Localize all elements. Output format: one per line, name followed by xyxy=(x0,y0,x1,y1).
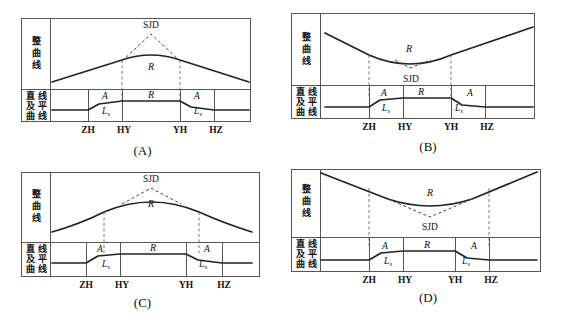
panel-b-sjd-label: SJD xyxy=(403,74,419,84)
panel-a-plan-row-label: 直 线 及 平 曲 线 xyxy=(26,90,47,121)
panel-d: 整 曲 线 直 线 及 平 曲 线 R SJD A xyxy=(285,164,571,328)
panel-c-spiral-label-right: A xyxy=(203,244,210,254)
panel-c-ls-left: Ls xyxy=(101,259,110,270)
panel-a-spiral-label-right: A xyxy=(193,91,200,101)
panel-d-radius-label: R xyxy=(426,187,433,198)
panel-b-spiral-label-right: A xyxy=(466,88,473,98)
panel-b-ls-left: Ls xyxy=(381,103,390,114)
panel-a-profile-frame xyxy=(22,19,251,90)
svg-text:曲: 曲 xyxy=(26,110,35,121)
svg-text:曲: 曲 xyxy=(302,43,311,54)
svg-text:Ls: Ls xyxy=(383,256,392,267)
svg-text:及: 及 xyxy=(26,254,36,264)
svg-text:及: 及 xyxy=(296,249,306,259)
panel-b-profile-curve xyxy=(325,27,533,64)
figure-grid: 整 曲 线 直 线 及 平 曲 线 xyxy=(0,0,571,328)
svg-text:曲: 曲 xyxy=(296,258,305,269)
panel-a-plan-radius-label: R xyxy=(147,89,154,100)
svg-text:直: 直 xyxy=(26,243,35,254)
panel-d-spiral-label-left: A xyxy=(381,241,388,251)
panel-a-tick-yh: YH xyxy=(173,125,188,135)
svg-text:Ls: Ls xyxy=(101,106,110,117)
panel-b-plan-row-label: 直 线 及 平 曲 线 xyxy=(296,86,317,117)
panel-a-tick-hy: HY xyxy=(117,125,131,135)
svg-text:线: 线 xyxy=(32,59,41,70)
svg-text:直: 直 xyxy=(296,238,305,249)
panel-d-sjd-label: SJD xyxy=(422,222,438,232)
svg-text:线: 线 xyxy=(38,263,47,274)
panel-a-tick-hz: HZ xyxy=(209,125,223,135)
svg-text:整: 整 xyxy=(301,183,311,194)
panel-b-tick-hy: HY xyxy=(398,122,412,132)
panel-a-profile-row-label: 整 曲 线 xyxy=(31,35,41,70)
panel-c-plan-row-label: 直 线 及 平 曲 线 xyxy=(26,243,47,274)
panel-c-sjd-label: SJD xyxy=(143,174,159,184)
svg-text:曲: 曲 xyxy=(32,200,41,211)
panel-c-tick-hy: HY xyxy=(115,280,129,290)
panel-c-plan-radius-label: R xyxy=(149,242,156,253)
svg-text:平: 平 xyxy=(38,254,47,264)
panel-a: 整 曲 线 直 线 及 平 曲 线 xyxy=(0,0,285,164)
panel-b-plan-radius-label: R xyxy=(417,86,424,97)
svg-text:平: 平 xyxy=(308,249,317,259)
svg-text:平: 平 xyxy=(308,97,317,107)
panel-c-tick-zh: ZH xyxy=(79,280,93,290)
panel-d-profile-row-label: 整 曲 线 xyxy=(301,183,311,218)
svg-text:线: 线 xyxy=(38,243,47,254)
panel-a-caption: (A) xyxy=(0,143,285,159)
panel-a-radius-label: R xyxy=(147,61,154,72)
svg-text:及: 及 xyxy=(296,97,306,107)
panel-d-ls-left: Ls xyxy=(383,256,392,267)
svg-text:曲: 曲 xyxy=(302,195,311,206)
panel-b: 整 曲 线 直 线 及 平 曲 线 R SJD xyxy=(285,0,571,164)
panel-a-diagram: 整 曲 线 直 线 及 平 曲 线 xyxy=(0,0,285,164)
svg-text:直: 直 xyxy=(26,90,35,101)
panel-a-ls-left: Ls xyxy=(101,106,110,117)
panel-d-tick-hy: HY xyxy=(398,275,412,285)
panel-b-plan-frame xyxy=(292,86,535,119)
panel-a-plan-frame xyxy=(22,90,251,122)
panel-a-plan-line xyxy=(52,101,249,110)
svg-text:Ls: Ls xyxy=(101,259,110,270)
svg-text:线: 线 xyxy=(38,110,47,121)
svg-text:线: 线 xyxy=(308,86,317,97)
svg-text:线: 线 xyxy=(302,55,311,66)
panel-c-tick-hz: HZ xyxy=(217,280,231,290)
panel-d-plan-line xyxy=(321,251,537,260)
panel-b-caption: (B) xyxy=(285,139,571,155)
svg-text:整: 整 xyxy=(31,35,41,46)
panel-c-plan-frame xyxy=(22,243,260,277)
panel-c-profile-frame xyxy=(22,173,260,243)
panel-a-sjd-label: SJD xyxy=(143,20,159,30)
panel-a-tick-zh: ZH xyxy=(81,125,95,135)
panel-d-plan-radius-label: R xyxy=(423,239,430,250)
panel-b-radius-label: R xyxy=(405,43,412,54)
panel-a-spiral-label-left: A xyxy=(101,91,108,101)
svg-text:曲: 曲 xyxy=(32,47,41,58)
panel-d-tick-hz: HZ xyxy=(484,275,498,285)
panel-b-spiral-label-left: A xyxy=(380,88,387,98)
panel-d-profile-frame xyxy=(292,170,541,238)
panel-d-plan-frame xyxy=(292,238,541,272)
panel-c-tick-yh: YH xyxy=(179,280,194,290)
panel-d-spiral-label-right: A xyxy=(470,241,477,251)
panel-d-tick-yh: YH xyxy=(448,275,463,285)
panel-b-tick-zh: ZH xyxy=(362,122,376,132)
svg-text:整: 整 xyxy=(301,31,311,42)
panel-b-plan-line xyxy=(325,98,533,107)
svg-text:线: 线 xyxy=(32,212,41,223)
svg-text:Ls: Ls xyxy=(381,103,390,114)
svg-text:线: 线 xyxy=(308,258,317,269)
svg-text:线: 线 xyxy=(38,90,47,101)
panel-c: 整 曲 线 直 线 及 平 曲 线 SJD R A xyxy=(0,164,285,328)
panel-d-tick-zh: ZH xyxy=(362,275,376,285)
panel-b-tick-yh: YH xyxy=(444,122,459,132)
panel-d-plan-row-label: 直 线 及 平 曲 线 xyxy=(296,238,317,269)
panel-b-tick-hz: HZ xyxy=(480,122,494,132)
svg-text:整: 整 xyxy=(31,188,41,199)
panel-c-spiral-label-left: A xyxy=(96,244,103,254)
svg-text:曲: 曲 xyxy=(26,263,35,274)
svg-text:线: 线 xyxy=(308,238,317,249)
panel-b-profile-row-label: 整 曲 线 xyxy=(301,31,311,66)
svg-text:直: 直 xyxy=(296,86,305,97)
